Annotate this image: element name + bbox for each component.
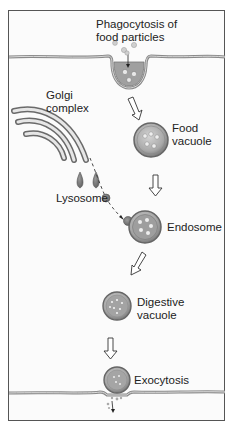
- arrow-down-icon: [111, 409, 115, 413]
- label-line: Food: [172, 122, 212, 135]
- label-digestive-vacuole: Digestive vacuole: [137, 296, 184, 322]
- label-line: Digestive: [137, 296, 184, 309]
- golgi-vesicles: [77, 172, 99, 188]
- exocytosis-vesicle: [104, 367, 130, 413]
- label-phagocytosis: Phagocytosis of food particles: [96, 18, 177, 44]
- label-line: Golgi: [46, 89, 89, 102]
- label-food-vacuole: Food vacuole: [172, 122, 212, 148]
- label-golgi-complex: Golgi complex: [46, 89, 89, 115]
- hollow-arrow-icon: [131, 252, 146, 275]
- hollow-arrow-icon: [149, 175, 162, 196]
- lysosome-trafficking-path: [90, 158, 122, 218]
- endosome: [124, 211, 162, 243]
- arrow-head-icon: [119, 215, 124, 220]
- food-vacuole: [134, 123, 168, 157]
- label-line: complex: [46, 102, 89, 115]
- label-exocytosis: Exocytosis: [134, 374, 189, 387]
- phagocytic-cup: [114, 52, 144, 86]
- label-line: Phagocytosis of: [96, 18, 177, 31]
- hollow-arrow-icon: [104, 338, 117, 359]
- food-particle-icon: [122, 69, 127, 74]
- label-line: vacuole: [137, 309, 184, 322]
- hollow-arrow-icon: [128, 97, 142, 120]
- label-line: food particles: [96, 31, 177, 44]
- label-lysosome: Lysosome: [56, 192, 108, 205]
- golgi-complex: [14, 109, 86, 160]
- label-endosome: Endosome: [167, 221, 222, 234]
- food-particle-icon: [131, 71, 136, 76]
- label-line: vacuole: [172, 135, 212, 148]
- diagram-canvas: [0, 0, 234, 434]
- food-particle-icon: [127, 78, 132, 83]
- digestive-vacuole: [103, 292, 131, 320]
